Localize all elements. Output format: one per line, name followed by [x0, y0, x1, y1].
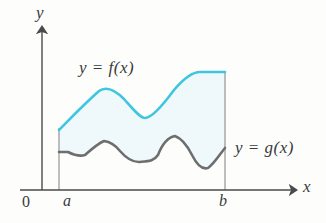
curve-label-f: y = f(x)	[79, 59, 134, 76]
x-axis-label: x	[303, 178, 311, 195]
figure-canvas	[0, 0, 326, 223]
tick-label-a: a	[63, 193, 71, 209]
tick-label-b: b	[219, 193, 227, 209]
curve-label-g: y = g(x)	[235, 139, 294, 156]
origin-label: 0	[22, 194, 30, 210]
shaded-region-between-curves	[59, 72, 225, 168]
y-axis-label: y	[36, 4, 44, 21]
area-between-curves-figure: y x 0 a b y = f(x) y = g(x)	[0, 0, 326, 223]
